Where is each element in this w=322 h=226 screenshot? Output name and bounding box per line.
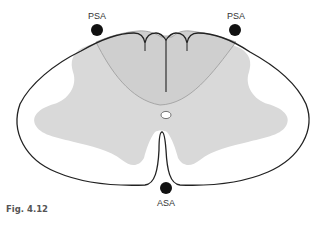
psa-left-dot [91,24,103,36]
psa-right-label: PSA [227,11,245,21]
spinal-cord-diagram: PSA PSA ASA Fig. 4.12 [0,0,322,226]
central-canal [161,111,171,118]
asa-dot [160,182,172,194]
figure-caption: Fig. 4.12 [6,204,48,214]
asa-label: ASA [157,198,175,208]
psa-right-dot [229,24,241,36]
psa-left-label: PSA [88,11,106,21]
cross-section-svg: PSA PSA ASA [0,0,322,226]
